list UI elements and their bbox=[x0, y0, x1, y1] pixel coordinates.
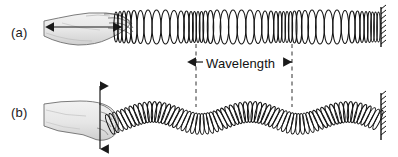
wavelength-annotation bbox=[0, 0, 398, 157]
panel-label-b: (b) bbox=[11, 105, 28, 120]
wavelength-label: Wavelength bbox=[206, 56, 275, 71]
wave-figure: Wavelength (a) (b) bbox=[0, 0, 398, 157]
panel-label-a: (a) bbox=[11, 25, 28, 40]
